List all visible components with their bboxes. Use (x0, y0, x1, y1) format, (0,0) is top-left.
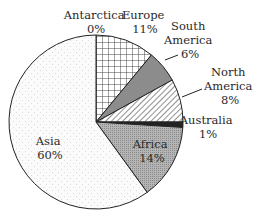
label-australia: Australia 1% (179, 113, 236, 141)
label-antarctica: Antarctica 0% (63, 8, 128, 36)
leader-line-south-america (165, 55, 178, 60)
pie-chart: Antarctica 0% Europe 11% South America 6… (0, 0, 258, 221)
label-asia: Asia 60% (35, 134, 64, 162)
label-europe: Europe 11% (122, 8, 168, 36)
pie-slices (9, 35, 183, 209)
label-north-america: North America 8% (203, 65, 256, 107)
leader-line-north-america (182, 89, 202, 97)
label-south-america: South America 6% (163, 19, 216, 61)
